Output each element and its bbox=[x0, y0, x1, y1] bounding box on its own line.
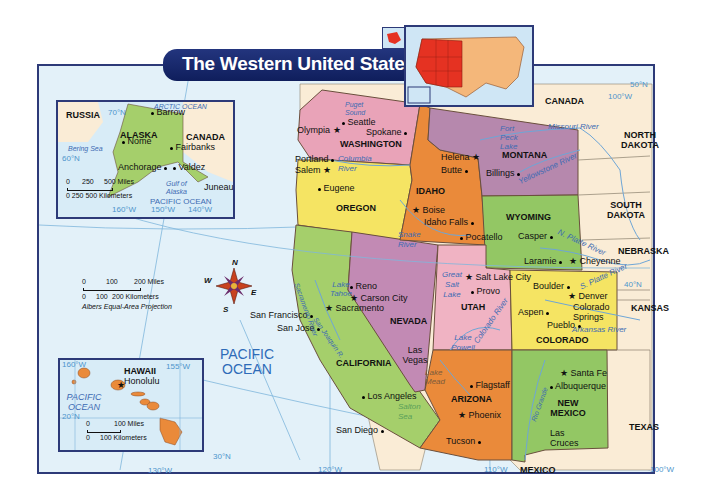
grid-160w-hi: 160°W bbox=[62, 360, 86, 369]
projection-note: Albers Equal-Area Projection bbox=[82, 303, 172, 310]
label-arizona: ARIZONA bbox=[451, 394, 492, 404]
city-fairbanks: Fairbanks bbox=[170, 142, 215, 152]
grid-50n: 50°N bbox=[630, 80, 648, 89]
city-anchorage: Anchorage bbox=[118, 162, 167, 172]
city-salem: Salem ★ bbox=[295, 165, 331, 175]
city-butte: Butte bbox=[441, 165, 468, 175]
city-laramie: Laramie bbox=[524, 256, 562, 266]
city-juneau: Juneau bbox=[204, 182, 234, 192]
label-puget-sound: Puget Sound bbox=[345, 101, 373, 117]
label-lake-tahoe: Lake Tahoe bbox=[328, 280, 354, 298]
city-helena: Helena ★ bbox=[441, 152, 480, 162]
grid-155w-hi: 155°W bbox=[166, 362, 190, 371]
grid-140w: 140°W bbox=[188, 205, 212, 214]
label-new-mexico: NEW MEXICO bbox=[548, 398, 588, 418]
label-columbia-river: Columbia River bbox=[338, 154, 378, 174]
city-barrow: Barrow bbox=[151, 107, 185, 117]
city-idaho-falls: Idaho Falls bbox=[424, 217, 474, 227]
city-seattle: Seattle bbox=[342, 117, 376, 127]
label-pacific-ocean-hi: PACIFIC OCEAN bbox=[64, 392, 104, 412]
label-canada: CANADA bbox=[545, 96, 584, 106]
city-eugene: Eugene bbox=[318, 183, 355, 193]
label-north-dakota: NORTH DAKOTA bbox=[620, 130, 660, 150]
city-colorado-springs: Colorado Springs bbox=[573, 302, 623, 322]
locator-map bbox=[404, 25, 534, 107]
alaska-inset: RUSSIA ALASKA CANADA ARCTIC OCEAN Barrow… bbox=[56, 100, 235, 219]
label-colorado: COLORADO bbox=[536, 335, 589, 345]
label-russia: RUSSIA bbox=[66, 110, 100, 120]
label-lake-powell: Lake Powell bbox=[449, 333, 477, 353]
grid-60n: 60°N bbox=[62, 154, 80, 163]
grid-110w: 110°W bbox=[484, 465, 508, 474]
city-flagstaff: Flagstaff bbox=[470, 380, 510, 390]
label-arkansas-river: Arkansas River bbox=[572, 325, 626, 334]
label-snake-river: Snake River bbox=[398, 230, 438, 250]
capital-star-icon: ★ bbox=[117, 380, 125, 390]
grid-30n: 30°N bbox=[213, 452, 231, 461]
city-billings: Billings bbox=[486, 168, 520, 178]
compass-west: W bbox=[204, 276, 212, 285]
city-phoenix: ★ Phoenix bbox=[458, 410, 501, 420]
city-las-cruces: Las Cruces bbox=[550, 428, 582, 448]
city-reno: Reno bbox=[350, 281, 377, 291]
city-olympia: Olympia ★ bbox=[297, 125, 341, 135]
compass-north: N bbox=[232, 258, 238, 267]
compass-rose-graphic bbox=[216, 268, 252, 304]
city-pocatello: Pocatello bbox=[460, 232, 503, 242]
label-south-dakota: SOUTH DAKOTA bbox=[603, 200, 649, 220]
label-missouri-river: Missouri River bbox=[548, 122, 599, 131]
label-nebraska: NEBRASKA bbox=[618, 246, 669, 256]
label-gulf-of-alaska: Gulf of Alaska bbox=[166, 180, 194, 196]
label-fort-peck-lake: Fort Peck Lake bbox=[500, 124, 534, 151]
city-tucson: Tucson bbox=[446, 436, 481, 446]
grid-20n-hi: 20°N bbox=[62, 412, 80, 421]
grid-70n: 70°N bbox=[108, 108, 126, 117]
city-salt-lake-city: ★ Salt Lake City bbox=[465, 272, 531, 282]
city-boise: ★ Boise bbox=[412, 205, 445, 215]
hawaii-inset: HAWAII Honolulu ★ PACIFIC OCEAN 160°W 15… bbox=[58, 358, 204, 452]
compass-east: E bbox=[251, 288, 256, 297]
label-canada-ak: CANADA bbox=[186, 132, 225, 142]
label-hawaii: HAWAII bbox=[124, 366, 156, 376]
grid-120w: 120°W bbox=[318, 465, 342, 474]
city-carson-city: ★ Carson City bbox=[350, 293, 408, 303]
grid-130w: 130°W bbox=[148, 466, 172, 475]
city-honolulu: Honolulu bbox=[124, 376, 160, 386]
city-santa-fe: ★ Santa Fe bbox=[560, 368, 607, 378]
label-texas: TEXAS bbox=[629, 422, 659, 432]
label-california: CALIFORNIA bbox=[336, 358, 392, 368]
city-provo: Provo bbox=[471, 286, 500, 296]
city-los-angeles: Los Angeles bbox=[362, 391, 417, 401]
city-las-vegas: Las Vegas bbox=[400, 345, 430, 365]
city-san-diego: San Diego bbox=[336, 425, 384, 435]
label-pacific-ocean: PACIFIC OCEAN bbox=[212, 347, 282, 377]
label-oregon: OREGON bbox=[336, 203, 376, 213]
grid-100w-bottom: 100°W bbox=[650, 465, 674, 474]
city-sacramento: ★ Sacramento bbox=[325, 303, 384, 313]
city-spokane: Spokane bbox=[366, 127, 407, 137]
label-montana: MONTANA bbox=[502, 150, 547, 160]
label-utah: UTAH bbox=[461, 302, 485, 312]
city-denver: ★ Denver bbox=[568, 291, 608, 301]
label-salton-sea: Salton Sea bbox=[398, 402, 424, 422]
label-idaho: IDAHO bbox=[416, 186, 445, 196]
grid-40n: 40°N bbox=[624, 280, 642, 289]
city-cheyenne: ★ Cheyenne bbox=[569, 256, 621, 266]
city-portland: Portland bbox=[295, 154, 334, 164]
label-bering-sea: Bering Sea bbox=[68, 145, 103, 152]
grid-100w-top: 100°W bbox=[608, 92, 632, 101]
label-great-salt-lake: Great Salt Lake bbox=[438, 270, 466, 300]
label-nevada: NEVADA bbox=[390, 316, 427, 326]
city-casper: Casper bbox=[518, 231, 553, 241]
label-washington: WASHINGTON bbox=[340, 139, 402, 149]
label-wyoming: WYOMING bbox=[506, 212, 551, 222]
city-boulder: Boulder bbox=[533, 281, 570, 291]
city-albuquerque: Albuquerque bbox=[550, 381, 606, 391]
label-mexico: MEXICO bbox=[520, 465, 556, 475]
page-title: The Western United States bbox=[182, 53, 415, 75]
label-kansas: KANSAS bbox=[631, 303, 669, 313]
grid-150w: 150°W bbox=[151, 205, 175, 214]
label-lake-mead: Lake Mead bbox=[425, 368, 449, 386]
city-nome: Nome bbox=[122, 136, 152, 146]
city-valdez: Valdez bbox=[173, 162, 205, 172]
